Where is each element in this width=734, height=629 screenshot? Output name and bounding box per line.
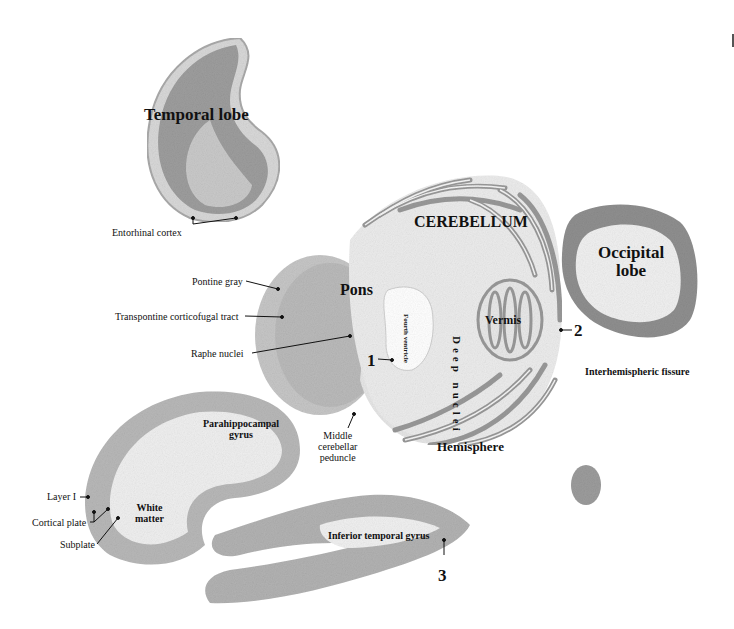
label-fourth: Fourth	[402, 314, 410, 335]
small-section-tissue	[571, 465, 601, 505]
callout-layer-i: Layer I	[47, 492, 76, 502]
label-ventricle: ventricle	[402, 337, 410, 363]
label-occipital-line1: Occipital	[598, 244, 664, 262]
label-interhemispheric-fissure: Interhemispheric fissure	[585, 367, 690, 377]
label-matter: matter	[135, 513, 164, 524]
label-hemisphere: Hemisphere	[437, 440, 504, 453]
callout-middle-cerebellar-peduncle: Middle cerebellar peduncle	[318, 430, 357, 463]
label-parahippocampal-gyrus: Parahippocampal gyrus	[203, 418, 279, 440]
brain-section-figure: Temporal lobe CEREBELLUM Occipital lobe …	[0, 0, 734, 629]
label-occipital-line2: lobe	[598, 262, 664, 280]
callout-subplate: Subplate	[60, 540, 95, 550]
temporal-lobe-tissue	[147, 38, 279, 222]
label-deep-nuclei: Deep nuclei	[451, 336, 462, 435]
callout-entorhinal-cortex: Entorhinal cortex	[112, 228, 182, 238]
callout-peduncle: peduncle	[318, 452, 357, 463]
label-vermis: Vermis	[485, 314, 521, 326]
marker-1: 1	[367, 352, 376, 369]
label-cerebellum: CEREBELLUM	[414, 214, 528, 230]
label-white-matter: White matter	[135, 502, 164, 524]
callout-middle: Middle	[318, 430, 357, 441]
callout-cortical-plate: Cortical plate	[32, 518, 86, 528]
label-parahippocampal-line2: gyrus	[203, 429, 279, 440]
label-fourth-ventricle: Fourth ventricle	[401, 314, 409, 363]
callout-transpontine-tract: Transpontine corticofugal tract	[115, 312, 239, 322]
label-white: White	[135, 502, 164, 513]
label-parahippocampal-line1: Parahippocampal	[203, 418, 279, 429]
label-inferior-temporal-gyrus: Inferior temporal gyrus	[328, 531, 429, 541]
callout-pontine-gray: Pontine gray	[192, 277, 243, 287]
marker-2: 2	[574, 322, 583, 339]
inferior-temporal-tissue	[205, 495, 470, 604]
marker-3: 3	[438, 567, 447, 584]
callout-cerebellar: cerebellar	[318, 441, 357, 452]
label-pons: Pons	[340, 282, 373, 298]
callout-raphe-nuclei: Raphe nuclei	[191, 349, 243, 359]
label-temporal-lobe: Temporal lobe	[144, 106, 249, 123]
label-occipital-lobe: Occipital lobe	[598, 244, 664, 280]
